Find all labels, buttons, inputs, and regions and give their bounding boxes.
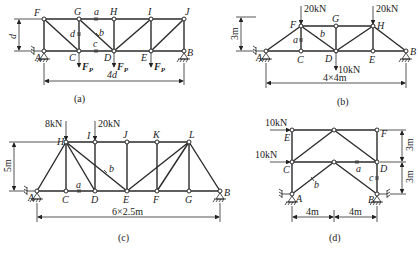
load-fp-d: FP xyxy=(116,61,129,74)
svg-text:F: F xyxy=(33,7,41,18)
svg-text:C: C xyxy=(62,194,69,205)
svg-text:B: B xyxy=(187,47,193,58)
svg-text:a: a xyxy=(356,163,361,174)
load-20kn-f: 20kN xyxy=(304,3,326,14)
svg-text:E: E xyxy=(140,52,147,63)
load-fp-e: FP xyxy=(153,61,166,74)
svg-text:3m: 3m xyxy=(404,138,415,151)
load-10kn-e: 10kN xyxy=(265,117,287,128)
svg-text:3m: 3m xyxy=(404,170,415,183)
truss-a-members xyxy=(44,19,184,51)
svg-text:K: K xyxy=(152,129,161,140)
svg-text:A: A xyxy=(255,52,263,63)
svg-text:E: E xyxy=(122,194,129,205)
svg-text:6×2.5m: 6×2.5m xyxy=(112,206,143,217)
svg-text:E: E xyxy=(283,132,290,143)
svg-text:4×4m: 4×4m xyxy=(323,72,347,83)
svg-text:A: A xyxy=(34,52,42,63)
svg-text:d: d xyxy=(70,28,76,39)
svg-text:E: E xyxy=(368,54,375,65)
svg-text:G: G xyxy=(74,6,81,17)
svg-text:B: B xyxy=(410,46,416,57)
truss-c-cut-marks xyxy=(78,170,107,193)
svg-text:4m: 4m xyxy=(349,206,362,217)
truss-c-members xyxy=(37,142,220,191)
load-20kn-i: 20kN xyxy=(98,118,120,129)
svg-text:a: a xyxy=(293,34,298,45)
svg-text:C: C xyxy=(69,52,76,63)
svg-text:a: a xyxy=(94,6,99,17)
svg-text:3m: 3m xyxy=(229,27,240,40)
svg-text:D: D xyxy=(379,163,388,174)
svg-text:F: F xyxy=(152,194,160,205)
svg-text:H: H xyxy=(56,136,65,147)
svg-text:G: G xyxy=(332,13,339,24)
svg-text:J: J xyxy=(185,6,190,17)
svg-text:A: A xyxy=(295,193,303,204)
truss-figure: FP FP FP F G H I J A C D E B a b c d d xyxy=(0,0,418,255)
load-10kn-c: 10kN xyxy=(255,149,277,160)
truss-d-node-labels: E F C D A B a b c xyxy=(283,128,388,205)
svg-text:D: D xyxy=(324,53,333,64)
svg-text:J: J xyxy=(123,129,128,140)
svg-text:H: H xyxy=(109,6,118,17)
truss-a-loads: FP FP FP xyxy=(79,52,166,74)
truss-b-members xyxy=(266,26,406,51)
truss-d: 10kN 10kN E F C D A B a b c 3m 3m xyxy=(255,117,415,244)
truss-a: FP FP FP F G H I J A C D E B a b c d d xyxy=(7,6,193,105)
svg-text:B: B xyxy=(368,194,374,205)
svg-text:A: A xyxy=(27,192,35,203)
load-20kn-h: 20kN xyxy=(376,3,398,14)
svg-text:b: b xyxy=(314,179,319,190)
caption-c: (c) xyxy=(118,232,129,244)
svg-text:I: I xyxy=(86,130,91,141)
svg-text:b: b xyxy=(99,27,104,38)
svg-text:d: d xyxy=(7,33,18,39)
svg-text:C: C xyxy=(297,54,304,65)
caption-d: (d) xyxy=(329,232,341,244)
svg-text:b: b xyxy=(320,28,325,39)
svg-text:c: c xyxy=(93,38,98,49)
truss-c: 8kN 20kN H I J K L A C D E F G B a b 5m xyxy=(2,118,230,244)
truss-a-node-labels: F G H I J A C D E B a b c d xyxy=(33,6,193,63)
svg-text:F: F xyxy=(289,19,297,30)
svg-text:c: c xyxy=(369,172,374,183)
svg-text:H: H xyxy=(376,20,385,31)
svg-text:G: G xyxy=(185,194,192,205)
svg-text:4m: 4m xyxy=(306,206,319,217)
caption-a: (a) xyxy=(74,93,85,105)
caption-b: (b) xyxy=(337,96,349,108)
truss-a-dimensions: d 4d xyxy=(7,19,184,85)
svg-text:5m: 5m xyxy=(2,159,13,172)
truss-c-dimensions: 5m 6×2.5m xyxy=(2,142,220,222)
svg-text:D: D xyxy=(103,52,112,63)
svg-text:L: L xyxy=(188,129,195,140)
truss-b-loads: 20kN 20kN 10kN xyxy=(301,3,398,75)
svg-text:C: C xyxy=(283,164,290,175)
load-8kn-h: 8kN xyxy=(45,118,62,129)
svg-text:a: a xyxy=(76,179,81,190)
truss-b: 20kN 20kN 10kN F G H A C D E B a b 3m 4×… xyxy=(229,3,416,108)
svg-text:B: B xyxy=(224,187,230,198)
load-fp-c: FP xyxy=(81,61,94,74)
svg-text:I: I xyxy=(147,6,152,17)
svg-text:4d: 4d xyxy=(107,69,118,80)
svg-text:b: b xyxy=(109,163,114,174)
svg-text:D: D xyxy=(90,194,99,205)
